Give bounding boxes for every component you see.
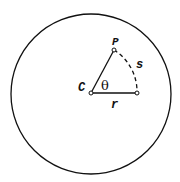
label-p: P xyxy=(112,36,119,48)
label-theta: θ xyxy=(101,78,109,93)
label-s: s xyxy=(136,58,143,72)
point-c-marker xyxy=(89,91,93,95)
circle-arc-diagram: P s C r θ xyxy=(0,0,180,182)
label-r: r xyxy=(111,98,118,112)
arc-s xyxy=(114,50,137,93)
point-r-marker xyxy=(135,91,139,95)
label-c: C xyxy=(78,81,86,95)
point-p-marker xyxy=(112,48,116,52)
